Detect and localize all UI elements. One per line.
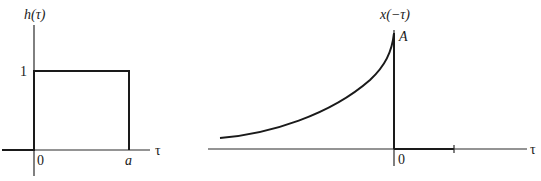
left-origin-label: 0 [37,153,44,168]
left-x-label: τ [155,143,161,158]
right-y-label: x(−τ) [379,7,410,23]
rect-pulse [2,71,129,150]
peak-label: A [398,29,408,44]
left-plot: h(τ) 1 0 a τ [2,7,161,176]
right-plot: x(−τ) A 0 τ [208,7,536,167]
left-y-label: h(τ) [24,7,46,23]
pulse-end-label: a [125,153,132,168]
right-x-label: τ [530,142,536,157]
level-one-label: 1 [20,64,27,79]
convolution-figure: h(τ) 1 0 a τ x(−τ) A 0 τ [0,0,541,181]
exponential-curve [220,33,394,149]
right-origin-label: 0 [398,152,405,167]
